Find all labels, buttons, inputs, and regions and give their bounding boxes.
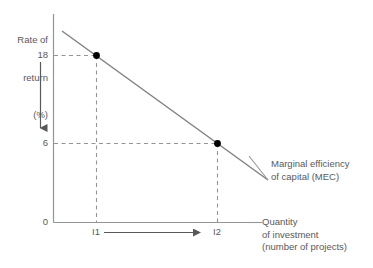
mec-series-label-line-2: of capital (MEC)	[271, 171, 373, 184]
y-tick-label-6: 6	[22, 137, 48, 148]
y-tick-label-18: 18	[22, 49, 48, 60]
x-axis-title-line-3: (number of projects)	[262, 241, 373, 254]
data-point-i2	[214, 140, 221, 147]
x-axis-title-line-2: of investment	[262, 229, 373, 242]
x-axis-title: Quantity of investment (number of projec…	[262, 216, 373, 254]
mec-investment-diagram: Rate of return (%) 18 6 0 I1 I2 Marginal…	[0, 0, 373, 268]
y-axis-title-line-2: return	[0, 72, 48, 85]
x-tick-label-i1: I1	[87, 226, 105, 237]
mec-series-label-line-1: Marginal efficiency	[271, 158, 373, 171]
x-tick-label-i2: I2	[208, 226, 226, 237]
mec-curve	[62, 31, 268, 180]
y-axis-title: Rate of return (%)	[0, 9, 48, 147]
x-axis-title-line-1: Quantity	[262, 216, 373, 229]
data-point-i1	[93, 52, 100, 59]
y-tick-label-0: 0	[22, 216, 48, 227]
y-axis-title-line-1: Rate of	[0, 34, 48, 47]
mec-series-label: Marginal efficiency of capital (MEC)	[271, 158, 373, 183]
y-axis-title-line-3: (%)	[0, 109, 48, 122]
